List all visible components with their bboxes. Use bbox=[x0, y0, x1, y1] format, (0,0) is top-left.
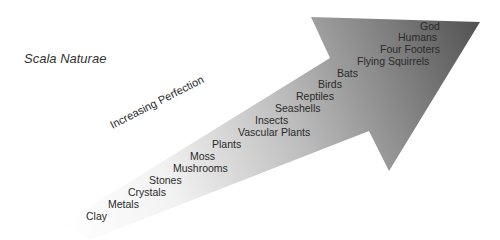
level-label: God bbox=[420, 20, 440, 32]
level-label: Crystals bbox=[128, 186, 166, 198]
level-label: Humans bbox=[398, 31, 437, 43]
diagram-title: Scala Naturae bbox=[24, 51, 106, 66]
level-label: Birds bbox=[318, 78, 342, 90]
level-label: Flying Squirrels bbox=[357, 55, 429, 67]
level-label: Clay bbox=[86, 210, 107, 222]
level-label: Moss bbox=[190, 150, 215, 162]
level-label: Stones bbox=[149, 174, 182, 186]
level-label: Reptiles bbox=[296, 90, 334, 102]
level-label: Bats bbox=[337, 67, 358, 79]
level-label: Insects bbox=[255, 114, 288, 126]
level-label: Mushrooms bbox=[173, 162, 228, 174]
level-label: Metals bbox=[108, 198, 139, 210]
level-label: Four Footers bbox=[380, 43, 440, 55]
level-label: Seashells bbox=[275, 102, 321, 114]
level-label: Plants bbox=[212, 138, 241, 150]
level-label: Vascular Plants bbox=[238, 126, 310, 138]
